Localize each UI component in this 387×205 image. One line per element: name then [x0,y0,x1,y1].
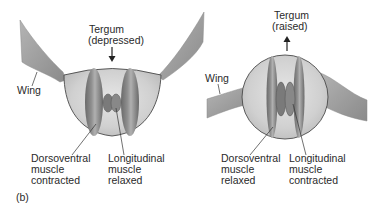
wing-leader-line [218,84,220,94]
dorsoventral-label: Dorsoventral muscle relaxed [221,153,281,186]
longitudinal-muscle-a [276,82,286,116]
tergum-state-label: (depressed) [88,35,144,46]
longitudinal-muscle-b [285,82,295,116]
label-line: relaxed [108,175,165,186]
tergum-state-label: (raised) [272,21,308,32]
wing-left [20,20,66,82]
panel-upstroke [207,36,367,155]
label-line: relaxed [221,175,281,186]
figure-label: (b) [16,192,29,203]
dorsoventral-label: Dorsoventral muscle contracted [31,153,91,186]
dorsoventral-leader-line [72,124,96,155]
arrowhead-down-icon [109,56,116,62]
longitudinal-label: Longitudinal muscle contracted [289,153,346,186]
label-line: contracted [289,175,346,186]
label-line: contracted [31,175,91,186]
dorsoventral-muscle-left [85,68,103,136]
wing-label: Wing [205,73,229,84]
wing-label: Wing [17,85,41,96]
wing-right [158,12,204,80]
longitudinal-label: Longitudinal muscle relaxed [108,153,165,186]
arrowhead-up-icon [284,36,291,42]
dorsoventral-muscle-right [121,68,139,136]
